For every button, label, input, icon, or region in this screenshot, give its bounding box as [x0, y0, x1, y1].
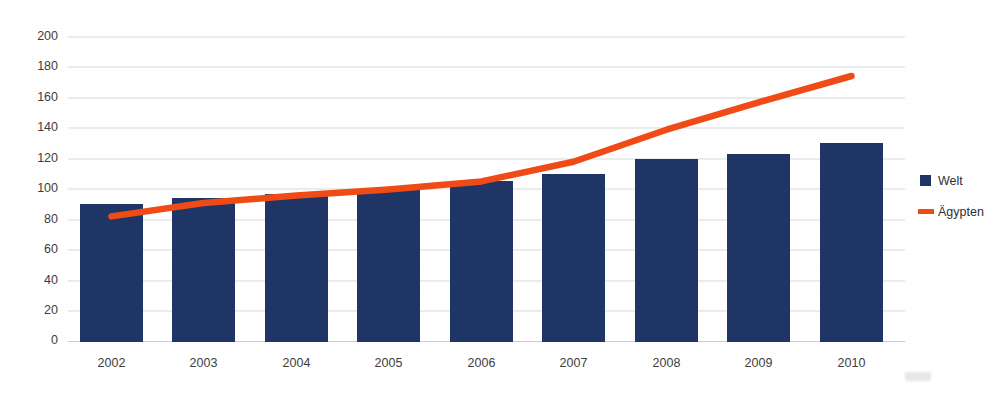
x-tick-label: 2008 — [653, 356, 681, 370]
chart-legend: Welt Ägypten — [918, 174, 984, 220]
bar-2002 — [80, 204, 143, 341]
bar-series-welt — [80, 143, 883, 342]
bar-2007 — [542, 174, 605, 342]
bar-2008 — [635, 159, 698, 342]
x-tick-label: 2006 — [468, 356, 496, 370]
y-tick-label: 60 — [44, 242, 58, 256]
legend-swatch-agypten — [918, 209, 934, 214]
legend-item-agypten[interactable]: Ägypten — [918, 205, 984, 219]
y-axis-labels: 200 180 160 140 120 100 80 60 40 20 0 — [37, 29, 58, 347]
bar-2009 — [727, 154, 790, 341]
y-tick-label: 0 — [51, 333, 58, 347]
x-tick-label: 2007 — [560, 356, 588, 370]
x-tick-label: 2010 — [838, 356, 866, 370]
y-tick-label: 160 — [37, 90, 58, 104]
y-tick-label: 180 — [37, 59, 58, 73]
y-tick-label: 20 — [44, 303, 58, 317]
y-tick-label: 120 — [37, 151, 58, 165]
chart-container: 200 180 160 140 120 100 80 60 40 20 0 — [0, 0, 1005, 395]
x-axis-labels: 2002 2003 2004 2005 2006 2007 2008 2009 … — [98, 356, 866, 370]
legend-swatch-welt — [920, 175, 931, 186]
y-tick-label: 200 — [37, 29, 58, 43]
bar-2003 — [172, 198, 235, 341]
bar-line-combo-chart: 200 180 160 140 120 100 80 60 40 20 0 — [0, 0, 1005, 395]
legend-label-welt: Welt — [938, 174, 963, 188]
y-tick-label: 80 — [44, 212, 58, 226]
bar-2006 — [450, 181, 513, 341]
y-tick-label: 140 — [37, 120, 58, 134]
bar-2004 — [265, 194, 328, 342]
y-tick-label: 100 — [37, 181, 58, 195]
bar-2005 — [357, 189, 420, 342]
legend-label-agypten: Ägypten — [938, 205, 984, 219]
x-tick-label: 2002 — [98, 356, 126, 370]
x-tick-label: 2004 — [283, 356, 311, 370]
x-tick-label: 2009 — [745, 356, 773, 370]
legend-item-welt[interactable]: Welt — [920, 174, 963, 188]
x-tick-label: 2003 — [190, 356, 218, 370]
x-tick-label: 2005 — [375, 356, 403, 370]
bar-2010 — [820, 143, 883, 342]
y-tick-label: 40 — [44, 273, 58, 287]
